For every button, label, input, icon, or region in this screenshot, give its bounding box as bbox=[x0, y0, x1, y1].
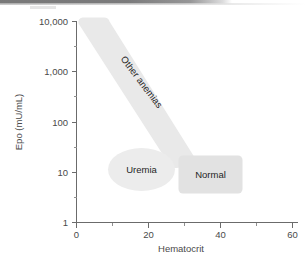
y-tick-label-100: 100 bbox=[52, 117, 68, 128]
y-tick-label-1: 1 bbox=[63, 217, 68, 228]
y-axis-major-ticks bbox=[72, 22, 77, 223]
x-tick-label-40: 40 bbox=[215, 229, 226, 240]
x-tick-label-60: 60 bbox=[287, 229, 298, 240]
chart-figure: Other anemias Uremia Normal bbox=[0, 0, 305, 256]
y-tick-label-10000: 10,000 bbox=[39, 16, 68, 27]
y-axis-tick-labels: 10,000 1,000 100 10 1 bbox=[39, 16, 68, 228]
x-axis-tick-labels: 0 20 40 60 bbox=[74, 229, 298, 240]
y-tick-label-1000: 1,000 bbox=[44, 66, 68, 77]
epo-hematocrit-plot: Other anemias Uremia Normal bbox=[0, 0, 305, 256]
x-axis-title: Hematocrit bbox=[158, 243, 204, 254]
x-axis-minor-ticks bbox=[113, 223, 257, 227]
region-label-uremia: Uremia bbox=[126, 164, 157, 175]
y-tick-label-10: 10 bbox=[57, 167, 68, 178]
x-tick-label-20: 20 bbox=[143, 229, 154, 240]
y-axis-title: Epo (mU/mL) bbox=[13, 94, 24, 150]
region-other-anemias bbox=[78, 18, 197, 168]
x-tick-label-0: 0 bbox=[74, 229, 79, 240]
region-label-normal: Normal bbox=[195, 169, 226, 180]
